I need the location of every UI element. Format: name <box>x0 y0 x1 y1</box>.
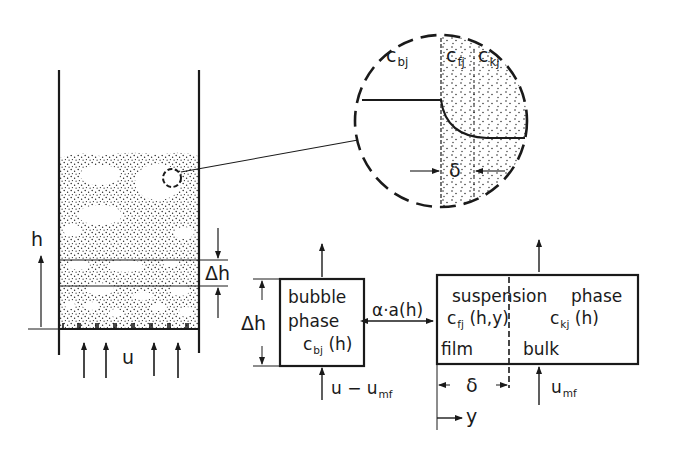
bubble-concentration-function: cbj (h) <box>303 336 352 353</box>
film-concentration-label: cfj <box>446 46 465 65</box>
suspension-phase-model <box>437 240 638 430</box>
bed-height-label: h <box>31 230 43 249</box>
bulk-concentration-function: ckj (h) <box>550 310 599 327</box>
film-thickness-label: δ <box>466 376 478 395</box>
bubble-slice-height-label: Δh <box>241 314 266 333</box>
suspension-phase-title-right: phase <box>571 288 622 305</box>
bubble-phase-title-line2: phase <box>288 313 339 330</box>
bulk-concentration-label: ckj <box>478 46 500 65</box>
bubble-inflow-velocity-label: u − umf <box>331 380 393 397</box>
zoom-connector-line <box>181 140 358 172</box>
bubble-phase-title-line1: bubble <box>288 289 346 306</box>
film-label: film <box>441 341 473 358</box>
magnifier-film-thickness-label: δ <box>449 161 461 180</box>
bed-particles <box>60 140 200 335</box>
mass-exchange-label: α·a(h) <box>372 302 423 319</box>
suspension-phase-title-left: suspension <box>452 288 547 305</box>
bulk-label: bulk <box>523 341 559 358</box>
film-concentration-function: cfj (h,y) <box>447 310 509 327</box>
bed-slice-label: Δh <box>205 264 230 283</box>
bubble-concentration-label: cbj <box>386 46 408 65</box>
suspension-inflow-velocity-label: umf <box>551 379 577 396</box>
y-coordinate-label: y <box>466 407 477 426</box>
gas-velocity-label: u <box>122 348 134 367</box>
